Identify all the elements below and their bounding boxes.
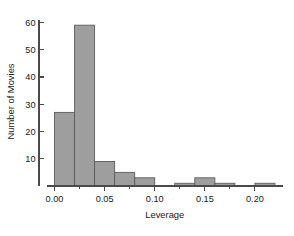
x-tick-label: 0.05 [96, 194, 114, 204]
chart-canvas: 102030405060 0.000.050.100.150.20 Levera… [0, 0, 294, 236]
y-tick-label: 60 [25, 18, 35, 28]
histogram-bar [75, 25, 95, 186]
x-tick-label: 0.00 [46, 194, 64, 204]
x-tick-labels: 0.000.050.100.150.20 [46, 194, 264, 204]
y-tick-label: 20 [25, 127, 35, 137]
y-axis: 102030405060 [25, 18, 43, 186]
x-axis: 0.000.050.100.150.20 [46, 186, 283, 204]
histogram-bar [195, 178, 215, 186]
y-tick-marks [39, 22, 44, 158]
histogram-bar [135, 178, 155, 186]
y-axis-title: Number of Movies [5, 63, 16, 139]
y-tick-label: 40 [25, 72, 35, 82]
y-tick-labels: 102030405060 [25, 18, 35, 164]
bars-group [55, 25, 275, 186]
x-tick-marks [55, 186, 255, 191]
histogram-bar [95, 161, 115, 186]
x-tick-label: 0.20 [246, 194, 264, 204]
y-tick-label: 50 [25, 45, 35, 55]
histogram-bar [115, 172, 135, 186]
histogram-figure: 102030405060 0.000.050.100.150.20 Levera… [0, 0, 294, 236]
y-tick-label: 30 [25, 100, 35, 110]
x-tick-label: 0.15 [196, 194, 214, 204]
x-axis-title: Leverage [145, 209, 184, 220]
histogram-bar [55, 112, 75, 186]
x-tick-label: 0.10 [146, 194, 164, 204]
y-tick-label: 10 [25, 154, 35, 164]
